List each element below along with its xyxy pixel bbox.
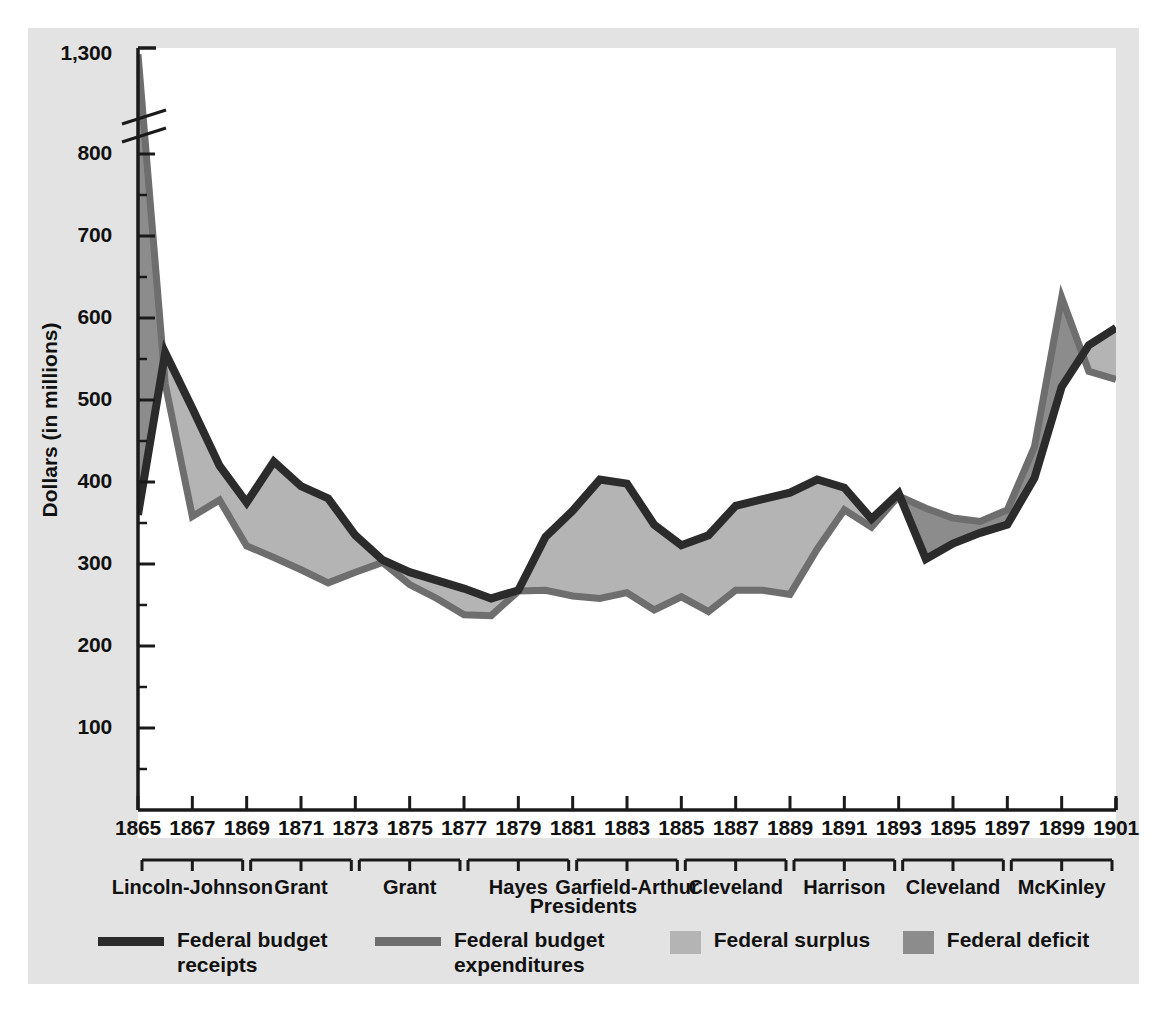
surplus-area: [164, 352, 900, 615]
area-fills: [138, 54, 1116, 615]
legend-label-line2-1: expenditures: [454, 953, 605, 978]
y-tick-label-1300: 1,300: [28, 41, 112, 65]
legend-item-0[interactable]: Federal budgetreceipts: [98, 928, 369, 977]
x-tick-label-1901: 1901: [1081, 816, 1151, 840]
y-tick-label-100: 100: [28, 715, 112, 739]
legend-box-swatch-2: [670, 931, 701, 954]
legend-line-swatch-0: [98, 937, 164, 946]
legend-label-line1-1: Federal budget: [454, 928, 605, 953]
legend-label-3: Federal deficit: [947, 928, 1089, 953]
legend-box-swatch-3: [903, 931, 934, 954]
legend-item-3[interactable]: Federal deficit: [903, 928, 1122, 954]
legend-label-0: Federal budgetreceipts: [177, 928, 328, 977]
legend-label-line2-0: receipts: [177, 953, 328, 978]
x-axis-title: Presidents: [28, 894, 1139, 918]
legend-label-2: Federal surplus: [714, 928, 870, 953]
legend-item-2[interactable]: Federal surplus: [670, 928, 897, 954]
chart-figure: 1002003004005006007008001,300 1865186718…: [28, 28, 1139, 984]
chart-legend: Federal budgetreceiptsFederal budgetexpe…: [98, 928, 1128, 984]
y-tick-label-800: 800: [28, 141, 112, 165]
y-axis-title: Dollars (in millions): [38, 230, 62, 610]
legend-label-line1-0: Federal budget: [177, 928, 328, 953]
legend-label-1: Federal budgetexpenditures: [454, 928, 605, 977]
legend-item-1[interactable]: Federal budgetexpenditures: [375, 928, 664, 977]
chart-canvas: [28, 28, 1139, 984]
y-tick-label-200: 200: [28, 633, 112, 657]
legend-line-swatch-1: [375, 937, 441, 946]
